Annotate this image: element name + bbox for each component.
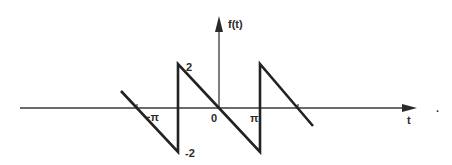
tick-label-max: 2 — [186, 61, 192, 73]
tick-label-min: -2 — [185, 147, 195, 159]
x-axis-label: t — [407, 114, 411, 126]
f-axis-arrow-icon — [215, 16, 223, 32]
tick-label-zero: 0 — [211, 112, 217, 124]
tick-label-neg-pi: −π — [144, 111, 159, 123]
y-axis-label: f(t) — [228, 18, 243, 30]
tick-label-pi: π — [250, 112, 259, 124]
sawtooth-figure: f(t) t 2 -2 −π 0 π . — [0, 0, 452, 165]
t-axis-arrow-icon — [402, 104, 417, 112]
trailing-period: . — [436, 102, 439, 114]
